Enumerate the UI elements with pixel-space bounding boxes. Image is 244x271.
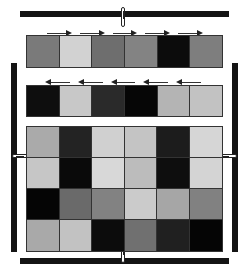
- tile[interactable]: [27, 86, 60, 116]
- grid-tile[interactable]: [157, 158, 190, 189]
- grid-tile[interactable]: [92, 158, 125, 189]
- grid-tile[interactable]: [190, 127, 223, 158]
- grid-tile[interactable]: [125, 189, 158, 220]
- grid-tile[interactable]: [125, 220, 158, 251]
- grid-tile[interactable]: [27, 127, 60, 158]
- tile[interactable]: [158, 86, 191, 116]
- grid-tile[interactable]: [60, 127, 93, 158]
- top-tile-row: [26, 35, 223, 68]
- middle-tile-row: [26, 85, 223, 117]
- grid-tile[interactable]: [125, 158, 158, 189]
- tile[interactable]: [190, 86, 222, 116]
- grid-tile[interactable]: [190, 189, 223, 220]
- grid-tile[interactable]: [60, 158, 93, 189]
- tile[interactable]: [158, 36, 191, 67]
- grid-tile[interactable]: [27, 158, 60, 189]
- tile[interactable]: [92, 36, 125, 67]
- grid-tile[interactable]: [92, 127, 125, 158]
- tile[interactable]: [60, 36, 93, 67]
- grid-tile[interactable]: [27, 220, 60, 251]
- main-tile-grid: [26, 126, 223, 252]
- grid-tile[interactable]: [157, 189, 190, 220]
- tile[interactable]: [125, 36, 158, 67]
- tile[interactable]: [92, 86, 125, 116]
- top-drag-handle[interactable]: [121, 7, 125, 27]
- grid-tile[interactable]: [157, 127, 190, 158]
- tile[interactable]: [125, 86, 158, 116]
- grid-tile[interactable]: [60, 220, 93, 251]
- tile[interactable]: [60, 86, 93, 116]
- grid-tile[interactable]: [92, 220, 125, 251]
- grid-tile[interactable]: [157, 220, 190, 251]
- grid-tile[interactable]: [125, 127, 158, 158]
- tile[interactable]: [190, 36, 222, 67]
- grid-tile[interactable]: [190, 220, 223, 251]
- grid-tile[interactable]: [27, 189, 60, 220]
- tile[interactable]: [27, 36, 60, 67]
- grid-tile[interactable]: [92, 189, 125, 220]
- grid-tile[interactable]: [60, 189, 93, 220]
- grid-tile[interactable]: [190, 158, 223, 189]
